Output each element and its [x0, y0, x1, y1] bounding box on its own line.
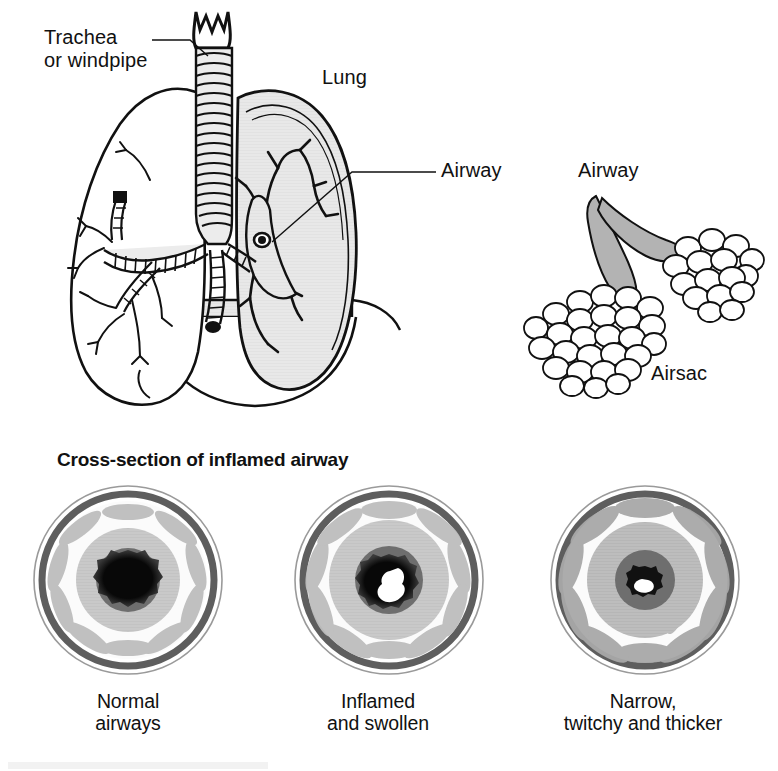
cross-section-inflamed	[295, 486, 483, 674]
clipped-bottom-text	[8, 762, 268, 769]
label-airsac: Airsac	[651, 362, 707, 385]
label-lung: Lung	[322, 66, 367, 89]
caption-narrow: Narrow, twitchy and thicker	[518, 690, 768, 735]
trachea	[194, 12, 232, 244]
cross-section-panel	[34, 486, 739, 674]
cross-section-normal	[34, 486, 222, 674]
label-airway-airsac: Airway	[578, 159, 639, 182]
cross-section-heading: Cross-section of inflamed airway	[57, 449, 348, 471]
cross-section-narrow	[551, 486, 739, 674]
caption-normal: Normal airways	[38, 690, 218, 735]
asthma-airway-diagram	[0, 0, 778, 771]
label-airway-lung: Airway	[441, 159, 502, 182]
label-trachea: Trachea or windpipe	[44, 26, 147, 72]
caption-inflamed: Inflamed and swollen	[288, 690, 468, 735]
